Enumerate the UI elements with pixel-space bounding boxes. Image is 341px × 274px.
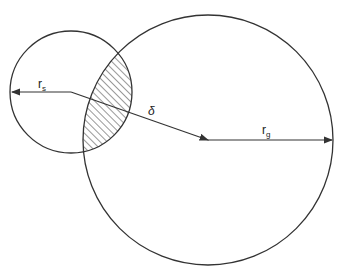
overlapping-circles-diagram: rs δ rg [0,0,341,274]
separation-label: δ [148,104,155,118]
small-radius-label: rs [38,77,46,93]
large-radius-label: rg [262,123,270,139]
